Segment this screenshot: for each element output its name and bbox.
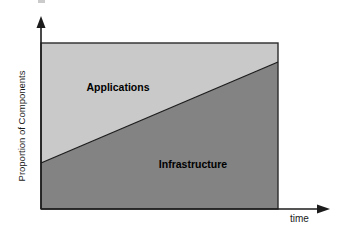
figure-canvas: Applications Infrastructure time Proport… [0, 0, 343, 229]
x-axis-arrow-icon [317, 205, 330, 214]
area-chart: Applications Infrastructure time Proport… [0, 0, 343, 229]
label-applications: Applications [86, 81, 149, 93]
y-axis-label: Proportion of Components [16, 70, 27, 181]
scan-artifact [38, 0, 45, 3]
x-axis-label: time [290, 213, 309, 224]
y-axis-arrow-icon [37, 16, 46, 28]
label-infrastructure: Infrastructure [159, 158, 227, 170]
